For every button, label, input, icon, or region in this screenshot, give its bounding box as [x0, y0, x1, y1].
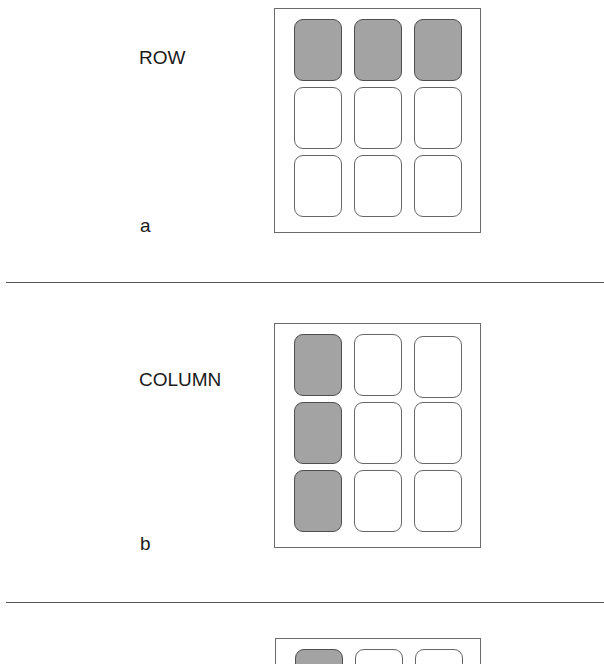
grid-cell-r2c3	[414, 402, 462, 464]
grid-cell-r2c2	[354, 402, 402, 464]
grid-cell-r2c1	[294, 87, 342, 149]
panel-title: ROW	[139, 48, 185, 67]
grid-cell-r1c1-highlighted	[295, 649, 343, 664]
grid-cell-r1c1-highlighted	[294, 19, 342, 81]
grid-cell-r1c2-highlighted	[354, 19, 402, 81]
section-divider	[6, 602, 604, 603]
grid-cell-r3c1	[294, 155, 342, 217]
grid-cell-r3c3	[414, 155, 462, 217]
grid-cell-r1c1-highlighted	[294, 334, 342, 396]
panel-letter: b	[140, 534, 151, 553]
grid-frame	[274, 323, 481, 548]
panel-title: COLUMN	[139, 370, 221, 389]
grid-cell-r2c2	[354, 87, 402, 149]
grid-cell-r3c1-highlighted	[294, 470, 342, 532]
grid-cell-r1c2	[354, 334, 402, 396]
grid-frame	[275, 638, 481, 664]
grid-cell-r3c2	[354, 470, 402, 532]
section-divider	[6, 282, 604, 283]
grid-cell-r1c3	[415, 649, 463, 664]
grid-cell-r3c3	[414, 470, 462, 532]
grid-frame	[274, 8, 481, 233]
grid-cell-r1c3-highlighted	[414, 19, 462, 81]
grid-cell-r1c2	[355, 649, 403, 664]
grid-cell-r2c1-highlighted	[294, 402, 342, 464]
grid-cell-r2c3	[414, 87, 462, 149]
panel-letter: a	[140, 216, 151, 235]
grid-cell-r3c2	[354, 155, 402, 217]
grid-cell-r1c3	[414, 336, 462, 398]
